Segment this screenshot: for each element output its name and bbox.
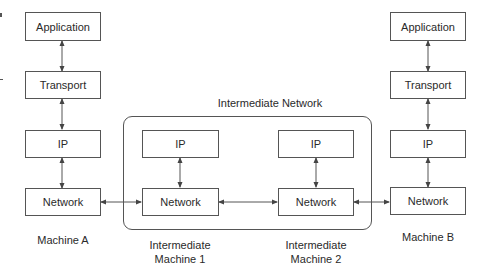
layer-label: Network [296,196,336,208]
layer-label: IP [175,138,185,150]
scan-mark [0,13,2,17]
machine-b-transport-layer: Transport [390,71,466,99]
intermediate-1-ip-layer: IP [142,130,219,158]
layer-label: Application [401,21,455,33]
layer-label: Application [36,21,90,33]
machine-b-label: Machine B [383,230,473,244]
layer-label: Network [408,195,448,207]
intermediate-1-network-layer: Network [142,188,219,216]
machine-b-network-layer: Network [390,187,466,215]
machine-a-label: Machine A [20,233,106,247]
machine-a-ip-layer: IP [25,130,101,158]
intermediate-machine-1-label: Intermediate Machine 1 [135,238,225,266]
machine-b-application-layer: Application [390,12,466,41]
label-line: Machine 2 [271,252,361,266]
intermediate-2-ip-layer: IP [278,130,354,158]
label-line: Intermediate [135,238,225,252]
intermediate-2-network-layer: Network [278,188,354,216]
intermediate-network-title: Intermediate Network [195,96,345,110]
machine-b-ip-layer: IP [390,130,466,158]
layer-label: IP [423,138,433,150]
machine-a-transport-layer: Transport [25,71,101,99]
layer-label: Transport [405,79,452,91]
scan-mark [0,79,3,80]
layer-label: Network [160,196,200,208]
layer-label: IP [58,138,68,150]
machine-a-network-layer: Network [25,188,101,216]
label-line: Intermediate [271,238,361,252]
label-line: Machine 1 [135,252,225,266]
machine-a-application-layer: Application [25,12,101,41]
layer-label: IP [311,138,321,150]
intermediate-machine-2-label: Intermediate Machine 2 [271,238,361,266]
layer-label: Transport [40,79,87,91]
layer-label: Network [43,196,83,208]
